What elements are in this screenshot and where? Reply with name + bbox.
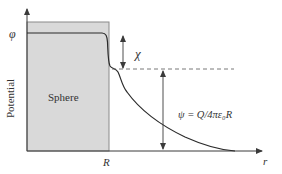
r-axis-label: r [263,155,268,167]
psi-label: ψ = Q/4πε₀R [178,109,233,120]
y-axis-label: Potential [4,79,16,118]
sphere-label: Sphere [48,91,79,103]
R-tick-label: R [102,156,110,168]
sphere-region [27,22,109,151]
potential-diagram: φ Potential Sphere χ ψ = Q/4πε₀R R r [0,0,282,174]
chi-label: χ [133,46,141,61]
phi-label: φ [9,27,16,41]
